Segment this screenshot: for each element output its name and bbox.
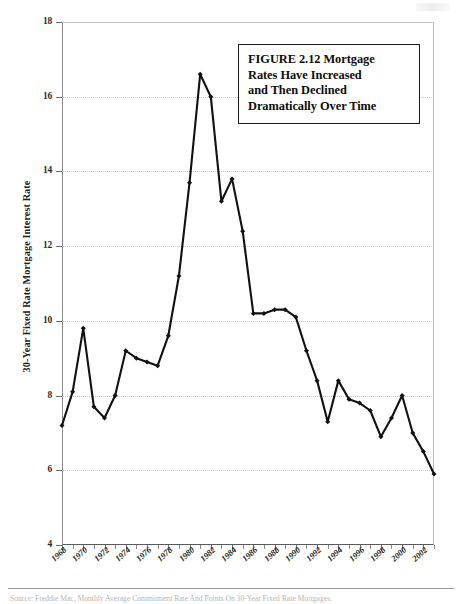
data-point-marker: [166, 333, 171, 338]
x-axis-minor-tick: [264, 545, 265, 549]
x-axis-minor-tick: [349, 545, 350, 549]
y-axis-tick-label: 10: [26, 315, 52, 325]
y-axis-tick-label: 18: [26, 16, 52, 26]
data-point-marker: [325, 419, 330, 424]
data-point-marker: [70, 389, 75, 394]
data-point-marker: [187, 180, 192, 185]
caption-line-1: FIGURE 2.12 Mortgage: [248, 52, 411, 68]
figure-root: 30-Year Fixed Rate Mortgage Interest Rat…: [0, 0, 462, 604]
source-note: Source: Freddie Mac, Monthly Average Com…: [10, 594, 440, 603]
series-polyline: [62, 74, 434, 474]
x-axis-minor-tick: [370, 545, 371, 549]
x-axis-minor-tick: [158, 545, 159, 549]
x-axis-minor-tick: [434, 545, 435, 549]
caption-line-2: Rates Have Increased: [248, 68, 411, 84]
x-axis-minor-tick: [328, 545, 329, 549]
data-point-marker: [176, 274, 181, 279]
x-axis-minor-tick: [115, 545, 116, 549]
x-axis-minor-tick: [200, 545, 201, 549]
scan-artifact: [416, 3, 450, 11]
x-axis-minor-tick: [94, 545, 95, 549]
data-point-marker: [272, 307, 277, 312]
data-point-marker: [155, 363, 160, 368]
y-axis-tick-label: 4: [26, 539, 52, 549]
source-divider: [8, 588, 454, 589]
x-axis-minor-tick: [243, 545, 244, 549]
y-axis-tick-label: 16: [26, 91, 52, 101]
x-axis-minor-tick: [179, 545, 180, 549]
data-point-marker: [304, 348, 309, 353]
x-axis-minor-tick: [73, 545, 74, 549]
data-point-marker: [60, 423, 65, 428]
y-axis-tick-label: 6: [26, 464, 52, 474]
data-point-marker: [251, 311, 256, 316]
y-axis-tick-label: 8: [26, 390, 52, 400]
data-point-marker: [145, 359, 150, 364]
y-axis-tick-label: 14: [26, 165, 52, 175]
figure-caption-box: FIGURE 2.12 Mortgage Rates Have Increase…: [238, 44, 420, 124]
caption-line-3: and Then Declined: [248, 83, 411, 99]
y-axis-tick-label: 12: [26, 240, 52, 250]
data-point-marker: [81, 326, 86, 331]
data-point-marker: [261, 311, 266, 316]
x-axis-minor-tick: [306, 545, 307, 549]
data-point-marker: [315, 378, 320, 383]
y-axis-title: 30-Year Fixed Rate Mortgage Interest Rat…: [21, 47, 32, 507]
x-axis-minor-tick: [391, 545, 392, 549]
data-point-marker: [240, 229, 245, 234]
x-axis-minor-tick: [136, 545, 137, 549]
x-axis-minor-tick: [221, 545, 222, 549]
caption-line-4: Dramatically Over Time: [248, 99, 411, 115]
x-axis-minor-tick: [413, 545, 414, 549]
x-axis-minor-tick: [285, 545, 286, 549]
